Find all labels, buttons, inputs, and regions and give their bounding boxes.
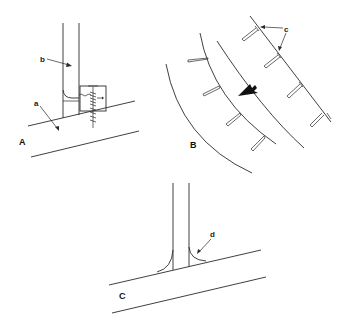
pin [251,136,265,151]
pin [226,113,241,126]
panel-c-label: C [119,291,126,301]
tapered-pins [188,58,265,151]
callout-d-label: d [210,230,215,239]
straight-rail [250,16,331,122]
callout-d-arrowhead-icon [197,249,201,254]
pin [203,86,220,96]
callout-b-arrowhead-icon [66,63,72,68]
screw-icon [79,87,96,128]
arrow-head-icon [102,97,104,100]
pin [188,58,208,62]
panel-a: b a A [19,23,139,157]
callout-c-arrowhead-icon [260,25,265,29]
callout-a-label: a [34,99,39,108]
callout-a-leader [40,106,57,128]
callout-b-label: b [40,55,45,64]
base-top-edge [28,101,135,126]
panel-a-label: A [19,137,26,147]
base-bottom-edge [31,131,139,157]
callout-c-leader-1 [263,27,283,28]
panel-b: c B [166,16,331,173]
fillet-left [157,250,173,272]
diagram-canvas: b a A [0,0,347,331]
fillet-right [189,247,206,261]
curve-middle [200,33,276,144]
base-bottom-edge [112,277,266,313]
callout-c-leader-2 [280,33,286,48]
post-fillet [63,90,79,98]
callout-b-leader [47,59,69,65]
curve-outer [166,64,252,173]
panel-c: d C [109,183,266,313]
callout-d-leader [199,239,211,252]
panel-b-label: B [190,140,197,150]
callout-c-arrowhead-icon [278,46,282,51]
base-top-edge [109,250,261,285]
callout-c-label: c [284,25,289,34]
t-pins [242,26,331,127]
